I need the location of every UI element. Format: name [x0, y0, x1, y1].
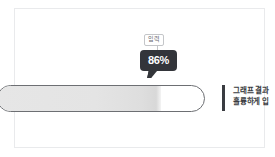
annotation-line-2: 훌륭하게 입 [233, 96, 269, 107]
annotation-text: 그래프 결과 훌륭하게 입 [233, 85, 269, 107]
progress-value-badge: 86% [140, 50, 177, 71]
progress-bar-track[interactable] [0, 85, 205, 112]
progress-illustration-card: 입력 86% 그래프 결과 훌륭하게 입 [14, 8, 265, 148]
annotation-accent-bar [222, 85, 225, 111]
badge-pointer-tail [147, 70, 158, 78]
input-chip-label: 입력 [144, 34, 164, 46]
progress-bar-fill [0, 86, 161, 111]
annotation-block: 그래프 결과 훌륭하게 입 [222, 85, 269, 111]
annotation-line-1: 그래프 결과 [233, 85, 269, 96]
progress-value-label: 86% [148, 55, 169, 66]
